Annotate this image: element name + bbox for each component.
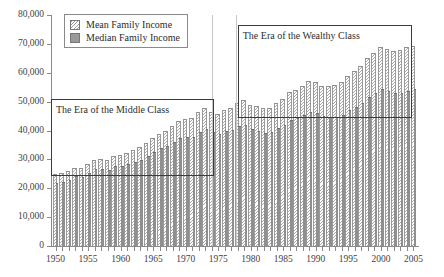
x-axis-tick-label: 1965 [137, 255, 169, 265]
y-axis-tick-label: 60,000 [18, 68, 44, 78]
x-axis-tick-label: 1955 [72, 255, 104, 265]
bar-median [88, 173, 91, 246]
x-axis-tick-mark [199, 247, 200, 251]
x-axis-tick-mark [277, 247, 278, 251]
x-axis-tick-mark [238, 247, 239, 251]
x-axis-tick-mark [127, 247, 128, 251]
bar-median [414, 89, 417, 246]
bar-median [114, 166, 117, 246]
y-axis-tick-label: 10,000 [18, 212, 44, 222]
y-axis-tick-label: 80,000 [18, 10, 44, 20]
x-axis-tick-label: 1975 [202, 255, 234, 265]
bar-median [349, 110, 352, 246]
bar-median [127, 164, 130, 246]
x-axis-tick-label: 1970 [170, 255, 202, 265]
x-axis-tick-mark [121, 247, 122, 251]
bar-median [82, 177, 85, 246]
x-axis-tick-mark [160, 247, 161, 251]
x-axis-tick-mark [322, 247, 323, 251]
bar-median [251, 129, 254, 246]
bar-median [368, 97, 371, 246]
x-axis-tick-label: 2005 [397, 255, 429, 265]
bar-median [342, 115, 345, 247]
x-axis-tick-mark [400, 247, 401, 251]
legend-label-mean: Mean Family Income [86, 20, 172, 30]
x-axis-tick-mark [101, 247, 102, 251]
x-axis-tick-mark [192, 247, 193, 251]
x-axis-tick-mark [348, 247, 349, 251]
x-axis-tick-mark [173, 247, 174, 251]
x-axis-tick-mark [335, 247, 336, 251]
x-axis-tick-mark [69, 247, 70, 251]
x-axis-tick-mark [251, 247, 252, 251]
income-bar-chart: 010,00020,00030,00040,00050,00060,00070,… [0, 0, 444, 277]
x-axis-tick-mark [394, 247, 395, 251]
era-middle-class-label: The Era of the Middle Class [56, 105, 169, 115]
x-axis-tick-mark [62, 247, 63, 251]
x-axis-tick-mark [82, 247, 83, 251]
bar-median [258, 131, 261, 246]
x-axis-tick-label: 1985 [267, 255, 299, 265]
bar-median [310, 112, 313, 246]
y-axis-tick-label: 20,000 [18, 183, 44, 193]
bar-median [355, 107, 358, 246]
x-axis-tick-mark [108, 247, 109, 251]
chart-legend: Mean Family Income Median Family Income [64, 14, 188, 48]
solid-gray-swatch-icon [70, 33, 80, 43]
hatched-swatch-icon [70, 20, 80, 30]
x-axis-tick-mark [56, 247, 57, 251]
x-axis-tick-label: 1980 [235, 255, 267, 265]
y-axis-tick-label: 0 [39, 241, 44, 251]
bar-median [101, 169, 104, 246]
x-axis-tick-mark [407, 247, 408, 251]
bar-median [336, 117, 339, 246]
x-axis-tick-mark [309, 247, 310, 251]
bar-median [219, 134, 222, 246]
x-axis-tick-mark [225, 247, 226, 251]
bar-median [297, 118, 300, 246]
bar-median [225, 131, 228, 246]
x-axis-line [51, 246, 419, 247]
x-axis-tick-label: 1995 [332, 255, 364, 265]
x-axis-tick-mark [179, 247, 180, 251]
x-axis-tick-mark [244, 247, 245, 251]
x-axis-tick-mark [296, 247, 297, 251]
x-axis-tick-mark [218, 247, 219, 251]
y-axis-tick-label: 40,000 [18, 126, 44, 136]
x-axis-tick-mark [75, 247, 76, 251]
x-axis-tick-label: 2000 [365, 255, 397, 265]
x-axis-tick-mark [342, 247, 343, 251]
x-axis-tick-mark [316, 247, 317, 251]
x-axis-tick-mark [257, 247, 258, 251]
bar-median [238, 126, 241, 246]
x-axis-tick-mark [303, 247, 304, 251]
x-axis-tick-mark [355, 247, 356, 251]
x-axis-tick-mark [205, 247, 206, 251]
bar-median [62, 182, 65, 246]
y-axis-tick-label: 50,000 [18, 97, 44, 107]
bar-median [95, 169, 98, 246]
x-axis-tick-mark [88, 247, 89, 251]
x-axis-tick-label: 1960 [105, 255, 137, 265]
bar-median [284, 125, 287, 246]
x-axis-tick-mark [264, 247, 265, 251]
x-axis-tick-mark [231, 247, 232, 251]
x-axis-tick-mark [290, 247, 291, 251]
legend-label-median: Median Family Income [86, 33, 180, 43]
x-axis-tick-mark [361, 247, 362, 251]
x-axis-tick-mark [368, 247, 369, 251]
bar-median [264, 133, 267, 246]
bar-median [323, 116, 326, 246]
legend-item-median: Median Family Income [70, 31, 180, 44]
x-axis-tick-mark [413, 247, 414, 251]
x-axis-tick-mark [283, 247, 284, 251]
x-axis-tick-mark [95, 247, 96, 251]
x-axis-tick-label: 1950 [40, 255, 72, 265]
x-axis-tick-mark [166, 247, 167, 251]
bar-median [316, 113, 319, 246]
bar-median [108, 170, 111, 246]
bar-median [303, 115, 306, 246]
legend-item-mean: Mean Family Income [70, 18, 180, 31]
y-axis-tick-label: 30,000 [18, 154, 44, 164]
bar-median [56, 183, 59, 246]
